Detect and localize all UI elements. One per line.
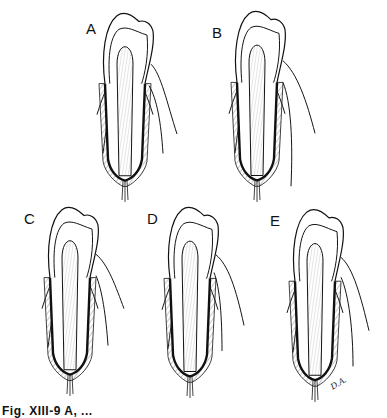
tooth-panel-d — [162, 207, 244, 398]
tooth-panel-b — [229, 11, 315, 202]
panel-label-e: E — [270, 212, 280, 229]
panel-label-c: C — [24, 210, 35, 227]
tooth-panel-c — [42, 207, 124, 396]
figure-caption: Fig. XIII-9 A, ... — [2, 404, 93, 418]
panel-label-d: D — [147, 210, 158, 227]
tooth-panel-e — [287, 209, 369, 402]
panel-label-b: B — [212, 24, 222, 41]
panel-label-a: A — [86, 20, 96, 37]
tooth-panel-a — [97, 13, 177, 202]
